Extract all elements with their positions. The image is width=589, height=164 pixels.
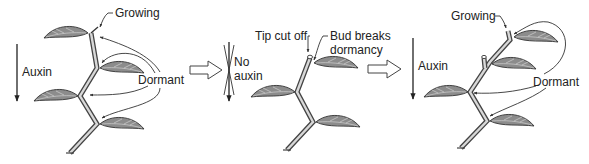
- no-label: No: [234, 55, 250, 69]
- tip-cut-off-label: Tip cut off: [255, 29, 308, 43]
- panel-new-leader: Auxin Growing Dormant: [413, 9, 580, 148]
- leaf-icon: [492, 57, 536, 69]
- plant-stem: [283, 55, 313, 150]
- leaf-icon: [100, 117, 144, 129]
- growing-label: Growing: [451, 9, 496, 23]
- auxin-label: auxin: [234, 69, 263, 83]
- auxin-label: Auxin: [418, 59, 448, 73]
- dormant-label: Dormant: [533, 75, 580, 89]
- bud-breaks-dormancy-label: Bud breaks: [330, 29, 391, 43]
- leaf-icon: [44, 26, 88, 38]
- leaf-icon: [100, 61, 144, 73]
- cut-tip: [308, 55, 313, 59]
- apical-dominance-diagram: Auxin Growing Dormant No auxin: [0, 0, 589, 164]
- hollow-right-arrow-icon: [190, 61, 222, 79]
- old-cut-tip: [482, 55, 487, 58]
- leaf-icon: [314, 56, 358, 68]
- bud-breaks-dormancy-label-line2: dormancy: [330, 43, 383, 57]
- leaf-icon: [490, 114, 534, 126]
- hollow-right-arrow-icon: [368, 60, 401, 78]
- dormant-label: Dormant: [138, 73, 185, 87]
- plant-stem: [66, 27, 98, 153]
- panel-intact-plant: Auxin Growing Dormant: [17, 6, 185, 153]
- leaf-icon: [251, 85, 295, 97]
- growing-tip: [91, 27, 98, 33]
- auxin-label: Auxin: [22, 65, 52, 79]
- panel-tip-removed: No auxin Tip cut off Bud breaks dormancy: [224, 29, 391, 150]
- leaf-icon: [514, 30, 558, 42]
- leaf-icon: [34, 89, 78, 101]
- leaf-icon: [424, 85, 468, 97]
- growing-label: Growing: [115, 6, 160, 20]
- leaf-icon: [316, 115, 360, 127]
